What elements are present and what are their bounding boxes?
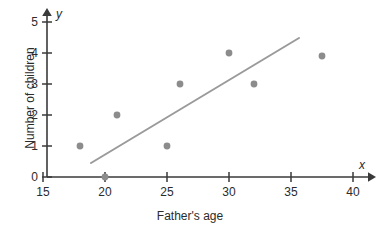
xtick-label-25: 25	[147, 186, 187, 198]
y-axis-arrowhead	[42, 8, 52, 16]
x-axis-arrowhead	[368, 172, 376, 182]
data-point	[77, 143, 84, 150]
data-point	[319, 53, 326, 60]
xtick-label-30: 30	[209, 186, 249, 198]
plot-area	[0, 0, 380, 234]
scatter-chart: 15 20 25 30 35 40 0 1 2 3 4 5 y x Father…	[0, 0, 380, 234]
xtick-label-20: 20	[85, 186, 125, 198]
x-axis-letter: x	[359, 159, 365, 171]
x-axis-title: Father's age	[0, 210, 380, 222]
data-point	[114, 112, 121, 119]
data-point	[164, 143, 171, 150]
data-point	[251, 81, 258, 88]
trend-line	[91, 38, 299, 163]
data-point	[177, 81, 184, 88]
xtick-label-15: 15	[23, 186, 63, 198]
y-axis-letter: y	[56, 8, 62, 20]
y-axis	[42, 8, 52, 177]
xtick-label-40: 40	[333, 186, 373, 198]
x-axis	[43, 172, 376, 182]
data-point	[102, 174, 109, 181]
y-axis-title: Number of children	[24, 18, 36, 178]
data-point	[226, 50, 233, 57]
xtick-label-35: 35	[271, 186, 311, 198]
data-points	[77, 50, 326, 181]
